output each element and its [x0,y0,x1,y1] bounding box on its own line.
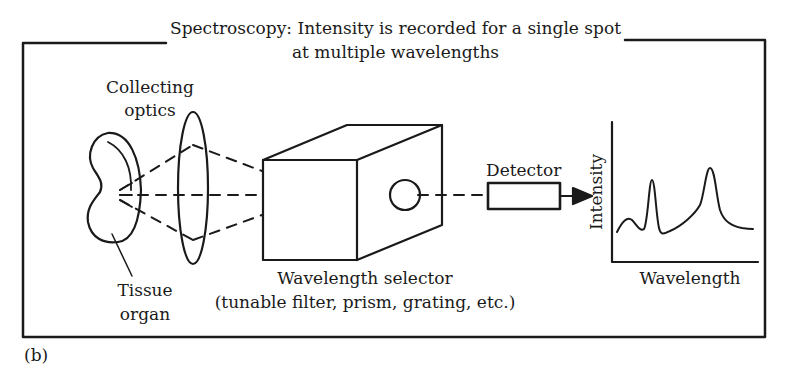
spectrum-curve [617,168,753,234]
selector-label-2: (tunable filter, prism, grating, etc.) [210,292,520,312]
figure-title-line2: at multiple wavelengths [166,42,625,62]
spectrum-plot [612,122,758,262]
plot-x-label: Wavelength [620,268,760,288]
panel-label: (b) [24,345,48,365]
detector-icon [488,183,592,209]
plot-y-label: Intensity [586,152,606,232]
figure-title-line1: Spectroscopy: Intensity is recorded for … [166,18,625,38]
tissue-label-1: Tissue [110,280,180,300]
wavelength-selector-cube-icon [263,125,442,260]
detector-label: Detector [486,160,561,180]
collecting-lens-icon [178,112,208,264]
tissue-organ-icon [88,133,141,276]
aperture-icon [390,180,420,210]
selector-label-1: Wavelength selector [210,268,520,288]
collecting-optics-label-2: optics [95,100,205,120]
tissue-label-2: organ [110,304,180,324]
collecting-optics-label-1: Collecting [95,77,205,97]
